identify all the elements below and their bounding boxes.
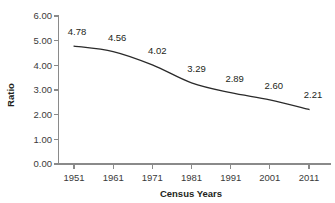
- y-tick-label-2: 2.00: [34, 109, 53, 120]
- x-axis-title: Census Years: [160, 188, 222, 199]
- value-label-1951: 4.78: [68, 26, 87, 37]
- chart-canvas: Ratio 6.00 5.00 4.00 3.00 2.00 1.00 0.00…: [0, 0, 335, 203]
- y-tick-label-1: 1.00: [34, 134, 53, 145]
- x-tick-label-1971: 1971: [142, 172, 163, 183]
- x-tick-label-1951: 1951: [63, 172, 84, 183]
- data-series-line: [74, 46, 309, 109]
- x-tick-label-1991: 1991: [220, 172, 241, 183]
- y-tick-label-6: 6.00: [34, 10, 53, 21]
- y-axis-title: Ratio: [5, 83, 16, 107]
- x-tick-label-1981: 1981: [181, 172, 202, 183]
- value-label-1991: 2.89: [225, 73, 244, 84]
- value-label-2001: 2.60: [265, 80, 284, 91]
- line-chart: Ratio 6.00 5.00 4.00 3.00 2.00 1.00 0.00…: [0, 0, 335, 203]
- x-tick-label-1961: 1961: [103, 172, 124, 183]
- y-tick-label-0: 0.00: [34, 158, 53, 169]
- y-tick-label-4: 4.00: [34, 60, 53, 71]
- y-tick-label-5: 5.00: [34, 35, 53, 46]
- value-label-1971: 4.02: [148, 45, 167, 56]
- value-label-1961: 4.56: [108, 32, 127, 43]
- value-label-1981: 3.29: [187, 63, 206, 74]
- x-tick-label-2001: 2001: [259, 172, 280, 183]
- x-tick-label-2011: 2011: [299, 172, 319, 183]
- y-tick-label-3: 3.00: [34, 84, 53, 95]
- value-label-2011: 2.21: [304, 89, 323, 100]
